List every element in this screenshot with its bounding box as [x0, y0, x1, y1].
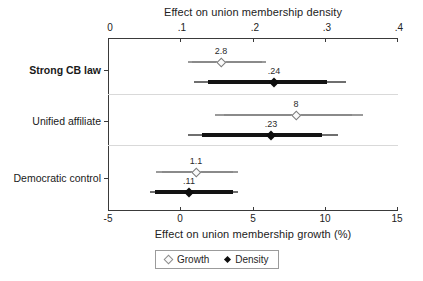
- legend-item-density[interactable]: Density: [225, 254, 268, 265]
- tick-top-0: [108, 38, 109, 42]
- estimate-label-density-0: .24: [268, 66, 281, 76]
- category-label-unified-affiliate: Unified affiliate: [32, 115, 101, 127]
- tick-bottom-1: [180, 207, 181, 211]
- top-axis-title: Effect on union membership density: [108, 6, 398, 18]
- row-separator-1: [108, 94, 398, 95]
- tick-bottom-3: [325, 207, 326, 211]
- category-label-democratic-control: Democratic control: [13, 172, 101, 184]
- tick-label-bottom-0: -5: [104, 213, 113, 224]
- estimate-label-growth-0: 2.8: [215, 46, 228, 56]
- category-tick-0: [104, 70, 108, 71]
- tick-label-bottom-1: 0: [177, 213, 183, 224]
- tick-label-top-3: .3: [323, 22, 331, 33]
- tick-label-top-4: .4: [395, 22, 403, 33]
- tick-label-top-0: 0: [107, 22, 113, 33]
- estimate-label-density-1: .23: [265, 119, 278, 129]
- ci-inner-density-1: [202, 133, 322, 137]
- bottom-axis-title: Effect on union membership growth (%): [108, 228, 398, 240]
- row-separator-2: [108, 145, 398, 146]
- marker-growth-0: [216, 57, 226, 67]
- hollow-diamond-icon: [164, 255, 174, 265]
- tick-label-bottom-3: 10: [319, 213, 330, 224]
- marker-growth-1: [291, 110, 301, 120]
- tick-bottom-2: [253, 207, 254, 211]
- tick-label-bottom-4: 15: [391, 213, 402, 224]
- forest-plot-figure: Effect on union membership density Effec…: [0, 0, 423, 281]
- category-label-strong-cb-law: Strong CB law: [29, 64, 101, 76]
- ci-inner-density-0: [208, 80, 327, 84]
- legend-item-growth[interactable]: Growth: [165, 254, 209, 265]
- estimate-label-growth-1: 8: [293, 99, 298, 109]
- marker-density-0: [269, 77, 279, 87]
- left-axis-spine: [108, 38, 109, 210]
- tick-top-2: [253, 38, 254, 42]
- ci-inner-growth-0: [192, 61, 262, 63]
- tick-top-3: [325, 38, 326, 42]
- tick-label-bottom-2: 5: [250, 213, 256, 224]
- marker-density-2: [184, 187, 194, 197]
- tick-top-1: [180, 38, 181, 42]
- estimate-label-growth-2: 1.1: [190, 156, 203, 166]
- filled-diamond-icon: [224, 256, 231, 263]
- category-tick-1: [104, 121, 108, 122]
- category-tick-2: [104, 178, 108, 179]
- tick-bottom-4: [397, 207, 398, 211]
- marker-density-1: [266, 130, 276, 140]
- ci-inner-growth-1: [224, 114, 352, 116]
- tick-top-4: [397, 38, 398, 42]
- tick-label-top-1: .1: [178, 22, 186, 33]
- estimate-label-density-2: .11: [183, 176, 195, 186]
- tick-label-top-2: .2: [251, 22, 259, 33]
- tick-bottom-0: [108, 207, 109, 211]
- legend-label-growth: Growth: [177, 254, 209, 265]
- legend: Growth Density: [155, 250, 279, 269]
- legend-label-density: Density: [235, 254, 268, 265]
